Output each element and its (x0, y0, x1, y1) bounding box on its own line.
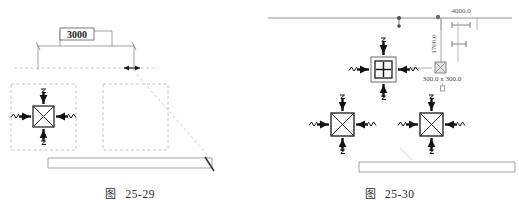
dimension-3000-text: 3000 (67, 29, 87, 40)
caption-number-left: 25-29 (126, 188, 155, 200)
selected-airflow-arrow-up (380, 38, 388, 55)
size-label-text: 300.0 x 300.0 (423, 75, 462, 83)
construction-line-diagonal (133, 70, 210, 158)
figure-caption-right: 图25-30 (260, 185, 519, 201)
lower-right-airflow-arrow-down (428, 138, 436, 154)
selected-airflow-arrow-down (380, 84, 388, 100)
figure-25-29: 3000 图25-29 (0, 0, 260, 207)
anchor-glyph-icon (441, 84, 445, 92)
dimension-horizontal-4000 (441, 18, 477, 30)
dimension-horizontal-text: 4000.0 (451, 7, 471, 15)
duct-endpoint-grip[interactable] (436, 15, 440, 19)
drawing-page: 3000 图25-29 (0, 0, 519, 207)
caption-label-right: 图 (365, 188, 377, 201)
caption-number-right: 25-30 (385, 188, 414, 200)
lower-right-airflow-arrow-up (428, 95, 436, 111)
lower-right-airflow-arrow-right (445, 121, 465, 129)
lower-left-airflow-arrow-right (356, 121, 376, 129)
airflow-arrow-right (56, 113, 76, 121)
lower-right-airflow-arrow-left (398, 121, 418, 129)
grip-arrow-horizontal[interactable] (124, 65, 140, 70)
lower-left-airflow-arrow-down (339, 138, 347, 154)
selected-airflow-arrow-right (398, 66, 418, 74)
duct-node-grip[interactable] (397, 16, 401, 28)
wall-bar-right (359, 162, 515, 172)
diffuser-symbol[interactable] (33, 106, 54, 127)
lower-left-airflow-arrow-up (339, 95, 347, 111)
figure-25-30: 1700.0 4000.0 300.0 x 300.0 (260, 0, 519, 207)
ghost-diffuser-icon[interactable] (435, 62, 446, 73)
figure-caption-left: 图25-29 (0, 185, 260, 201)
figure-25-29-canvas: 3000 (0, 0, 260, 207)
airflow-arrow-left (11, 113, 31, 121)
construction-mark-diagonal (400, 148, 412, 160)
selected-airflow-arrow-left (349, 66, 369, 74)
caption-label-left: 图 (105, 188, 117, 201)
dimension-vertical-text: 1700.0 (430, 34, 438, 54)
diffuser-lower-right[interactable] (420, 113, 443, 136)
lower-left-airflow-arrow-left (309, 121, 329, 129)
airflow-arrow-down (40, 129, 48, 145)
diffuser-selected[interactable] (371, 57, 396, 82)
diffuser-lower-left[interactable] (331, 113, 354, 136)
airflow-arrow-up (40, 89, 48, 104)
figure-25-30-canvas: 1700.0 4000.0 300.0 x 300.0 (260, 0, 519, 207)
dashed-region-right (103, 84, 168, 150)
wall-bar (48, 158, 212, 168)
dimension-vertical-1700 (452, 22, 466, 62)
